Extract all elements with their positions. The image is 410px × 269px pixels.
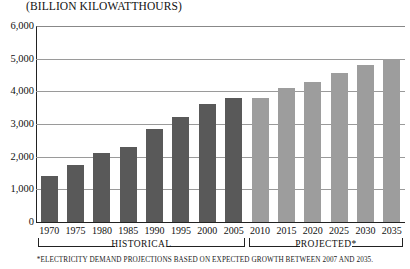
bar-1970 (41, 176, 58, 222)
bar-1975 (67, 165, 84, 222)
x-axis-tick-label: 2035 (372, 225, 410, 236)
y-axis-tick-label: 1,000 (0, 184, 34, 194)
bar-1995 (172, 117, 189, 222)
y-axis-tick-label: 3,000 (0, 119, 34, 129)
bar-1985 (120, 147, 137, 222)
bar-chart: (BILLION KILOWATTHOURS) 6,0005,0004,0003… (0, 0, 410, 269)
chart-title: (BILLION KILOWATTHOURS) (26, 0, 182, 12)
bar-2000 (199, 104, 216, 222)
bar-2010 (252, 98, 269, 222)
bar-2035 (383, 59, 400, 222)
chart-footnote: *ELECTRICITY DEMAND PROJECTIONS BASED ON… (0, 256, 410, 264)
y-axis-tick-label: 4,000 (0, 86, 34, 96)
bar-2020 (304, 82, 321, 222)
bars-layer (36, 26, 405, 222)
y-axis-tick-label: 6,000 (0, 21, 34, 31)
y-axis-tick-label: 2,000 (0, 152, 34, 162)
bar-2030 (357, 65, 374, 222)
bar-2025 (331, 73, 348, 222)
x-axis-line (36, 222, 405, 223)
bar-2005 (225, 98, 242, 222)
legend-label-projected: PROJECTED* (249, 239, 403, 249)
bar-1990 (146, 129, 163, 222)
y-axis-tick-label: 5,000 (0, 54, 34, 64)
bar-1980 (93, 153, 110, 222)
legend-label-historical: HISTORICAL (38, 239, 245, 249)
bar-2015 (278, 88, 295, 222)
